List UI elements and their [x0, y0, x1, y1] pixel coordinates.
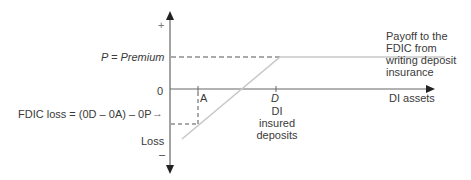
premium-label: P = Premium	[101, 51, 164, 64]
y-plus-label: +	[158, 19, 164, 32]
diagram-canvas	[0, 0, 471, 180]
fdic-loss-arrow-icon: →	[152, 107, 163, 120]
payoff-label-line: insurance	[386, 66, 456, 78]
caption-line: insured	[254, 117, 300, 129]
tick-d-caption: DI insured deposits	[254, 105, 300, 141]
tick-a-label: A	[200, 92, 207, 105]
y-axis-up-arrow-icon	[166, 11, 174, 20]
y-minus-label: –	[159, 148, 165, 161]
fdic-loss-label: FDIC loss = (0D – 0A) – 0P	[18, 108, 152, 121]
origin-label: 0	[157, 85, 163, 98]
loss-label: Loss	[141, 135, 164, 148]
tick-d-label: D	[271, 92, 279, 105]
fdic-payoff-diagram: + P = Premium 0 A D DI insured deposits …	[0, 0, 471, 180]
caption-line: DI	[254, 105, 300, 117]
x-axis-label: DI assets	[389, 92, 435, 105]
payoff-label-line: Payoff to the	[386, 30, 456, 42]
payoff-label-line: writing deposit	[386, 54, 456, 66]
caption-line: deposits	[254, 129, 300, 141]
y-axis-down-arrow-icon	[166, 165, 174, 174]
payoff-label-line: FDIC from	[386, 42, 456, 54]
payoff-label: Payoff to the FDIC from writing deposit …	[386, 30, 456, 78]
